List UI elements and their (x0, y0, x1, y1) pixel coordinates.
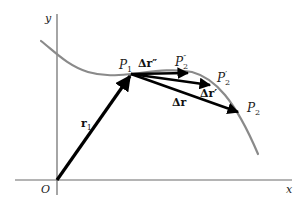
origin-label: O (41, 183, 50, 196)
delta-r-double-prime-vector (131, 73, 188, 74)
p2-label: P2 (246, 101, 260, 117)
diagram-canvas: y x O r1 P1 Δr″ P2″ P2′ Δr′ Δr P2 (0, 0, 308, 206)
r1-label: r1 (81, 117, 92, 132)
delta-r-prime-label: Δr′ (200, 87, 217, 100)
p2-prime-label: P2′ (216, 69, 230, 87)
r1-vector (57, 76, 130, 180)
delta-r-double-prime-label: Δr″ (138, 57, 157, 70)
p2-double-prime-label: P2″ (174, 53, 188, 71)
delta-r-label: Δr (172, 96, 187, 109)
y-axis-label: y (44, 12, 52, 25)
p1-label: P1 (118, 58, 132, 74)
x-axis-label: x (286, 183, 293, 196)
